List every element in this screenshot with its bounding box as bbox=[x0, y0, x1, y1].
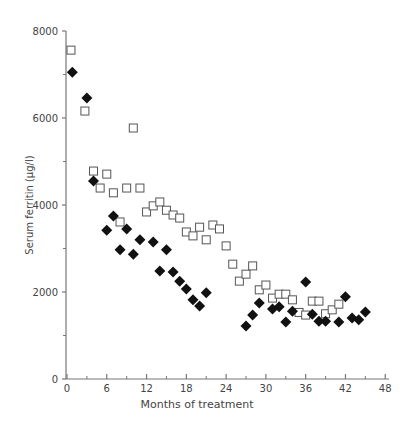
x-tick-label: 12 bbox=[140, 383, 153, 394]
square-marker bbox=[202, 236, 210, 244]
square-marker bbox=[123, 184, 131, 192]
x-tick-label: 6 bbox=[104, 383, 110, 394]
x-tick-label: 36 bbox=[299, 383, 312, 394]
square-marker bbox=[229, 260, 237, 268]
diamond-marker bbox=[101, 225, 112, 236]
diamond-marker bbox=[67, 67, 78, 78]
x-axis-label: Months of treatment bbox=[141, 398, 255, 411]
square-marker bbox=[103, 170, 111, 178]
diamond-marker bbox=[115, 244, 126, 255]
y-axis-label: Serum ferritin (μg/l) bbox=[24, 155, 35, 254]
x-tick-label: 42 bbox=[339, 383, 352, 394]
y-tick-label: 6000 bbox=[33, 113, 58, 124]
square-marker bbox=[189, 232, 197, 240]
y-tick-label: 4000 bbox=[33, 200, 58, 211]
x-tick-label: 24 bbox=[220, 383, 233, 394]
square-marker bbox=[116, 218, 124, 226]
diamond-marker bbox=[333, 317, 344, 328]
x-tick-label: 18 bbox=[180, 383, 193, 394]
diamond-marker bbox=[360, 307, 371, 318]
x-tick-label: 0 bbox=[64, 383, 70, 394]
square-marker bbox=[136, 184, 144, 192]
diamond-marker bbox=[128, 249, 139, 260]
square-marker bbox=[129, 124, 137, 132]
data-points bbox=[67, 46, 371, 331]
square-marker bbox=[215, 225, 223, 233]
square-marker bbox=[81, 107, 89, 115]
x-tick-label: 30 bbox=[260, 383, 273, 394]
y-tick-label: 2000 bbox=[33, 287, 58, 298]
x-ticks: 0612182430364248 bbox=[64, 374, 392, 394]
square-marker bbox=[109, 189, 117, 197]
diamond-marker bbox=[81, 92, 92, 103]
square-marker bbox=[67, 46, 75, 54]
square-marker bbox=[96, 184, 104, 192]
diamond-marker bbox=[181, 283, 192, 294]
axes bbox=[66, 31, 389, 379]
square-marker bbox=[288, 296, 296, 304]
diamond-marker bbox=[148, 236, 159, 247]
x-tick-label: 48 bbox=[379, 383, 392, 394]
diamond-marker bbox=[154, 266, 165, 277]
diamond-marker bbox=[201, 287, 212, 298]
square-marker bbox=[249, 262, 257, 270]
diamond-marker bbox=[134, 234, 145, 245]
diamond-marker bbox=[161, 244, 172, 255]
diamond-marker bbox=[300, 276, 311, 287]
diamond-marker bbox=[174, 276, 185, 287]
square-marker bbox=[196, 223, 204, 231]
diamond-marker bbox=[247, 310, 258, 321]
diamond-marker bbox=[280, 317, 291, 328]
y-tick-label: 0 bbox=[52, 374, 58, 385]
square-marker bbox=[335, 300, 343, 308]
square-marker bbox=[315, 297, 323, 305]
square-marker bbox=[156, 198, 164, 206]
y-ticks: 02000400060008000 bbox=[33, 26, 66, 385]
square-marker bbox=[262, 281, 270, 289]
scatter-chart: 02000400060008000 0612182430364248 Month… bbox=[0, 0, 415, 427]
diamond-marker bbox=[241, 320, 252, 331]
square-marker bbox=[176, 214, 184, 222]
diamond-marker bbox=[254, 297, 265, 308]
square-marker bbox=[222, 242, 230, 250]
diamond-marker bbox=[168, 266, 179, 277]
square-marker bbox=[90, 167, 98, 175]
square-marker bbox=[242, 270, 250, 278]
y-tick-label: 8000 bbox=[33, 26, 58, 37]
